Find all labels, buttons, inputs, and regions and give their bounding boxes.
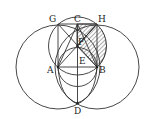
label-H: H [98, 14, 106, 24]
label-G: G [49, 14, 56, 24]
label-B: B [99, 65, 106, 75]
geometry-diagram: G C H F A E B D [0, 0, 148, 119]
arc-right-BD [77, 67, 97, 103]
label-C: C [74, 14, 81, 24]
label-E: E [79, 56, 86, 66]
label-D: D [74, 106, 81, 116]
arc-left-AD [58, 67, 77, 103]
label-A: A [46, 65, 54, 75]
label-F: F [78, 37, 84, 47]
